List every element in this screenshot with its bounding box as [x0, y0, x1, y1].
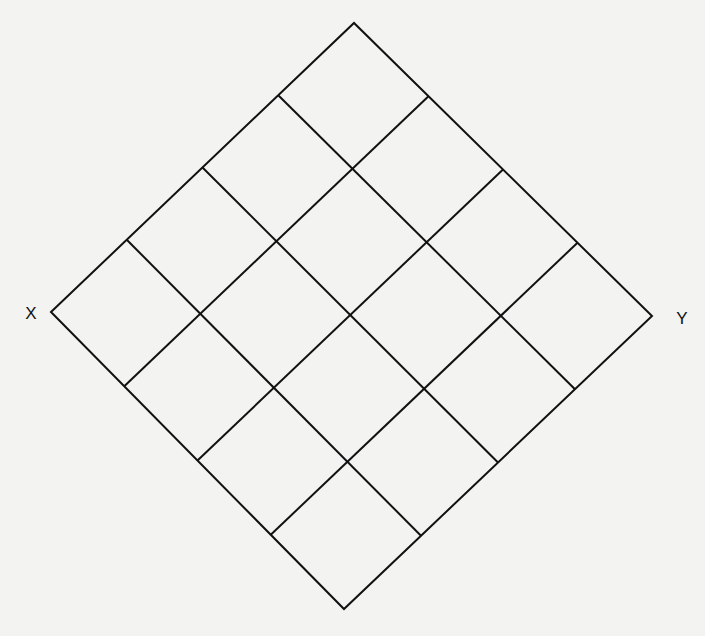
- grid-line-ascending: [271, 243, 578, 535]
- grid-line-descending: [203, 168, 499, 463]
- grid-line-descending: [278, 95, 575, 389]
- vertex-label-x: X: [25, 305, 36, 322]
- grid-lines: [124, 95, 577, 536]
- vertex-label-y: Y: [676, 310, 687, 327]
- diamond-grid-diagram: [0, 0, 705, 636]
